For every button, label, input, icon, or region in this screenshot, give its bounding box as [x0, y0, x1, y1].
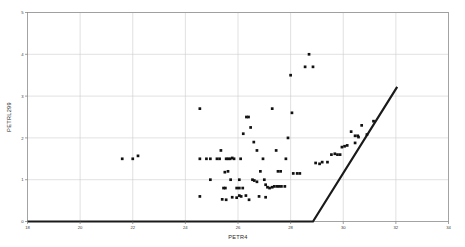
data-point: [256, 149, 259, 152]
plot-canvas: 182022242628303234012345PETR4PETRL299: [0, 0, 465, 247]
data-point: [252, 141, 255, 144]
data-point: [259, 170, 262, 173]
data-point: [289, 74, 292, 77]
x-tick-label: 30: [341, 225, 346, 230]
data-point: [354, 134, 357, 137]
data-point: [209, 157, 212, 160]
data-point: [229, 178, 232, 181]
data-point: [314, 162, 317, 165]
y-tick-label: 3: [21, 94, 24, 99]
data-point: [262, 157, 265, 160]
data-point: [285, 157, 288, 160]
data-point: [366, 133, 369, 136]
x-tick-label: 24: [183, 225, 188, 230]
data-point: [333, 152, 336, 155]
data-point: [205, 157, 208, 160]
data-point: [263, 178, 266, 181]
data-point: [280, 185, 283, 188]
data-point: [277, 170, 280, 173]
data-point: [283, 185, 286, 188]
x-tick-label: 28: [288, 225, 293, 230]
y-tick-label: 0: [21, 219, 24, 224]
data-point: [296, 172, 299, 175]
data-point: [224, 187, 227, 190]
data-point: [354, 142, 357, 145]
data-point: [321, 161, 324, 164]
data-point: [343, 145, 346, 148]
data-point: [256, 180, 259, 183]
x-tick-label: 32: [394, 225, 399, 230]
data-point: [273, 185, 276, 188]
data-point: [227, 170, 230, 173]
y-tick-label: 2: [21, 136, 24, 141]
data-point: [131, 157, 134, 160]
data-point: [336, 153, 339, 156]
payoff-line: [28, 87, 398, 222]
data-point: [271, 107, 274, 110]
data-point: [248, 198, 251, 201]
gridlines: [28, 13, 449, 222]
data-point: [372, 120, 375, 123]
data-point: [240, 195, 243, 198]
y-tick-label: 4: [21, 52, 24, 57]
data-point: [137, 155, 140, 158]
data-point: [268, 187, 271, 190]
data-point: [238, 187, 241, 190]
data-point: [326, 161, 329, 164]
y-tick-label: 1: [21, 177, 24, 182]
data-point: [304, 65, 307, 68]
data-point: [221, 198, 224, 201]
x-tick-label: 34: [446, 225, 451, 230]
data-point: [264, 183, 267, 186]
data-point: [258, 195, 261, 198]
x-tick-label: 26: [236, 225, 241, 230]
data-point: [312, 65, 315, 68]
x-tick-label: 22: [130, 225, 135, 230]
data-point: [341, 146, 344, 149]
data-point: [308, 53, 311, 56]
data-point: [225, 198, 228, 201]
data-point: [350, 130, 353, 133]
y-axis-title: PETRL299: [6, 102, 12, 132]
data-point: [233, 157, 236, 160]
x-axis-title: PETR4: [228, 234, 248, 240]
data-point: [264, 196, 267, 199]
data-point: [298, 172, 301, 175]
data-point: [278, 185, 281, 188]
data-point: [223, 171, 226, 174]
data-point: [253, 179, 256, 182]
data-point: [209, 178, 212, 181]
data-point: [357, 136, 360, 139]
data-point: [291, 111, 294, 114]
data-point: [239, 157, 242, 160]
data-point: [339, 153, 342, 156]
data-point: [220, 149, 223, 152]
data-point: [292, 172, 295, 175]
y-axis: 012345: [21, 10, 27, 224]
data-point: [249, 126, 252, 129]
data-point: [242, 132, 245, 135]
x-tick-label: 18: [25, 225, 30, 230]
data-point: [199, 195, 202, 198]
data-point: [241, 187, 244, 190]
data-point: [235, 196, 238, 199]
data-point: [279, 170, 282, 173]
data-point: [247, 116, 250, 119]
data-point: [330, 153, 333, 156]
data-point: [238, 178, 241, 181]
data-point: [287, 137, 290, 140]
scatter-chart: 182022242628303234012345PETR4PETRL299: [0, 0, 465, 247]
data-point: [231, 196, 234, 199]
x-axis: 182022242628303234: [25, 222, 451, 231]
y-tick-label: 5: [21, 10, 24, 15]
data-point: [346, 144, 349, 147]
data-point: [275, 149, 278, 152]
data-point: [199, 107, 202, 110]
data-point: [245, 194, 248, 197]
data-point: [121, 157, 124, 160]
data-point: [235, 187, 238, 190]
data-point: [218, 157, 221, 160]
data-point: [360, 124, 363, 127]
scatter-points: [121, 53, 375, 201]
data-point: [216, 157, 219, 160]
